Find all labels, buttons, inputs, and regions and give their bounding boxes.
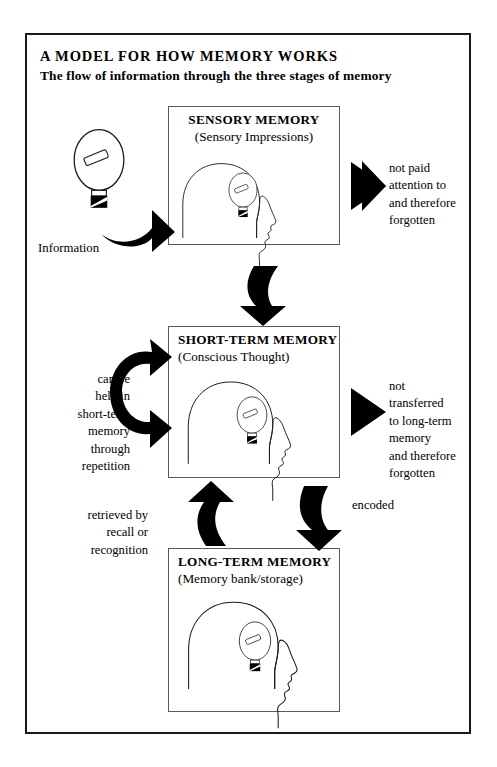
stage-subtitle-sensory-memory: (Sensory Impressions): [168, 129, 340, 146]
label-information: Information: [38, 240, 99, 258]
note-rehearsal: can beheld inshort-termmemorythroughrepe…: [38, 371, 130, 475]
diagram-canvas: A MODEL FOR HOW MEMORY WORKS The flow of…: [0, 0, 497, 767]
note-encoding: encoded: [352, 497, 394, 514]
page-subtitle: The flow of information through the thre…: [40, 68, 391, 84]
stage-title-short-term-memory: SHORT-TERM MEMORY: [178, 332, 337, 349]
note-retrieval: retrieved byrecall orrecognition: [38, 507, 148, 559]
stage-subtitle-short-term-memory: (Conscious Thought): [178, 349, 289, 366]
note-loss-short-term: nottransferredto long-termmemoryand ther…: [389, 378, 456, 482]
stage-title-sensory-memory: SENSORY MEMORY: [168, 112, 340, 129]
stage-subtitle-long-term-memory: (Memory bank/storage): [178, 571, 303, 588]
note-loss-sensory: not paidattention toand thereforeforgott…: [389, 160, 456, 230]
page-title: A MODEL FOR HOW MEMORY WORKS: [40, 48, 338, 65]
stage-title-long-term-memory: LONG-TERM MEMORY: [178, 554, 331, 571]
